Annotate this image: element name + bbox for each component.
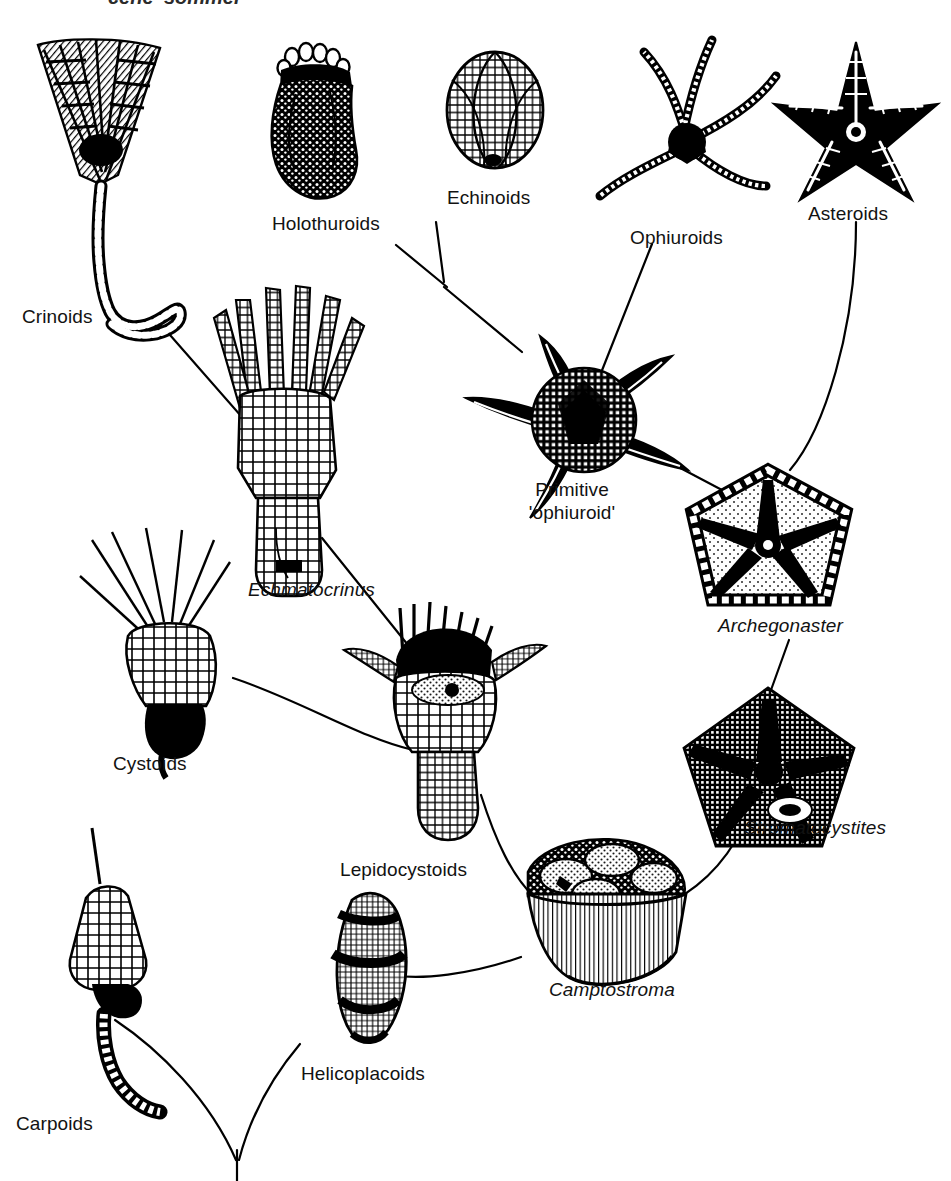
cystoid-illustration xyxy=(80,528,230,778)
label-cystoids: Cystoids xyxy=(113,752,187,775)
label-camptostroma: Camptostroma xyxy=(549,978,675,1001)
crinoid-illustration xyxy=(38,39,180,335)
branch-helicoplacoids-to-root xyxy=(239,1044,300,1160)
label-carpoids: Carpoids xyxy=(16,1112,93,1135)
label-echmatocrinus: Echmatocrinus xyxy=(248,578,375,601)
branch-archegonaster-to-stromatocystites xyxy=(771,640,789,690)
label-ophiuroids: Ophiuroids xyxy=(630,226,723,249)
branch-echinoids xyxy=(436,222,444,282)
branch-cystoids-to-lepidocystoids xyxy=(233,678,413,750)
label-helicoplacoids: Helicoplacoids xyxy=(301,1062,425,1085)
camptostroma-illustration xyxy=(528,839,686,984)
echinoid-illustration xyxy=(447,52,543,168)
branch-ophiuroids xyxy=(597,244,652,383)
holothuroid-illustration xyxy=(272,43,357,198)
label-archegonaster: Archegonaster xyxy=(718,614,843,637)
label-stromatocystites: Stromatocystites xyxy=(744,816,886,839)
lepidocystoid-illustration xyxy=(344,602,546,840)
label-holothuroids: Holothuroids xyxy=(272,212,380,235)
branch-junction-to-primitive xyxy=(444,287,522,352)
archegonaster-illustration xyxy=(692,470,846,600)
ophiuroid-illustration xyxy=(600,40,776,196)
echinoderm-phylogeny-artwork xyxy=(0,0,951,1181)
label-echinoids: Echinoids xyxy=(447,186,530,209)
helicoplacoid-illustration xyxy=(333,893,406,1042)
label-primitive-ophiuroid-line1: Primitive xyxy=(535,478,609,501)
branch-camptostroma-to-helicoplacoids xyxy=(392,957,521,977)
label-lepidocystoids: Lepidocystoids xyxy=(340,858,467,881)
label-asteroids: Asteroids xyxy=(808,202,888,225)
echmatocrinus-illustration xyxy=(214,286,364,596)
diagram-canvas: cene 'sommer xyxy=(0,0,951,1181)
carpoid-illustration xyxy=(70,828,160,1112)
branch-asteroids xyxy=(790,222,856,470)
label-primitive-ophiuroid-line2: 'ophiuroid' xyxy=(529,501,616,524)
label-crinoids: Crinoids xyxy=(22,305,93,328)
asteroid-illustration xyxy=(774,42,938,200)
